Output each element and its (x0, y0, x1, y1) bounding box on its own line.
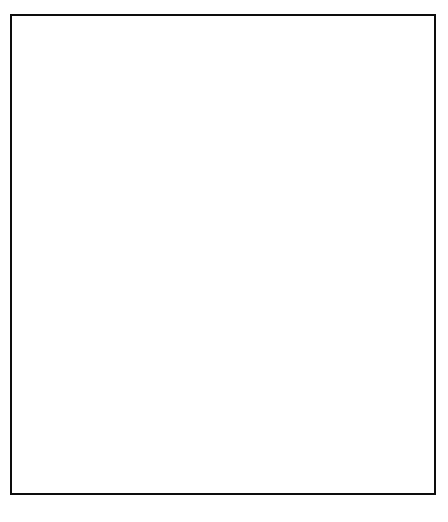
figure-border (10, 14, 436, 495)
chart-figure: 0.000.050.100.150.200.250.300.35 1945194… (0, 0, 448, 522)
